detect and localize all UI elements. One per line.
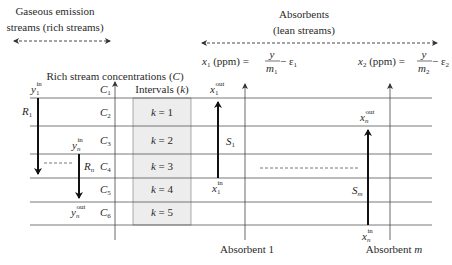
svg-text:− ε1: − ε1 (280, 55, 298, 69)
svg-text:m1: m1 (266, 62, 278, 76)
eq1-unit: (ppm) = (210, 55, 249, 68)
rich-axis-label: Rich stream concentrations (C) (46, 70, 184, 83)
c2-label: C2 (100, 106, 111, 120)
r1-inlet-label: y1in (30, 80, 42, 97)
lean-streams-header: Absorbents (lean streams) (202, 8, 437, 43)
sm-inlet-label: xnin (361, 227, 373, 244)
rn-name: Rn (83, 160, 95, 174)
eq1-den-var: m (266, 62, 274, 74)
interval-k5: k = 5 (151, 206, 174, 218)
composition-interval-diagram: Gaseous emission streams (rich streams) … (0, 0, 452, 265)
eq1-eps-sub: 1 (294, 61, 298, 69)
eq1-minus: − ε (280, 55, 294, 67)
interval-k3: k = 3 (151, 160, 174, 172)
lean-stream-s1: x1out S1 x1in (209, 80, 236, 196)
svg-text:m2: m2 (418, 62, 430, 76)
interval-k4: k = 4 (151, 183, 174, 195)
lean-title-line2: (lean streams) (273, 24, 335, 37)
eq2-den-sub: 2 (426, 68, 430, 76)
equation-absorbent-1: x1 (ppm) = y m1 − ε1 (201, 48, 298, 76)
interval-k1: k = 1 (151, 106, 173, 118)
rn-inlet-label: ynin (71, 136, 83, 153)
c4-label: C4 (100, 160, 111, 174)
eq2-numerator: y (421, 48, 427, 60)
concentration-labels: C1 C2 C3 C4 C5 C6 (100, 83, 111, 220)
sm-outlet-label: xnout (359, 108, 374, 125)
eq1-den-sub: 1 (274, 68, 278, 76)
eq2-unit: (ppm) = (366, 55, 405, 68)
s1-outlet-label: x1out (209, 80, 224, 97)
intervals-header: Intervals (k) (135, 83, 189, 96)
svg-text:x2 (ppm) =: x2 (ppm) = (357, 55, 405, 69)
c6-label: C6 (100, 206, 111, 220)
sm-name: Sm (352, 184, 363, 198)
s1-name: S1 (226, 135, 236, 149)
absorbent-1-label: Absorbent 1 (220, 243, 274, 255)
eq2-eps-sub: 2 (446, 61, 450, 69)
c3-label: C3 (100, 134, 111, 148)
svg-text:− ε2: − ε2 (432, 55, 450, 69)
eq2-den-var: m (418, 62, 426, 74)
rich-stream-r1: y1in R1 (21, 80, 72, 174)
s1-inlet-label: x1in (211, 179, 223, 196)
absorbent-m-label: Absorbent m (366, 243, 423, 255)
svg-text:x1 (ppm) =: x1 (ppm) = (201, 55, 249, 69)
interval-k2: k = 2 (151, 134, 173, 146)
c5-label: C5 (100, 183, 111, 197)
c1-label: C1 (100, 83, 111, 97)
rich-streams-header: Gaseous emission streams (rich streams) (6, 5, 110, 41)
rich-title-line1: Gaseous emission (15, 5, 95, 17)
eq2-minus: − ε (432, 55, 446, 67)
eq1-numerator: y (269, 48, 275, 60)
equation-absorbent-2: x2 (ppm) = y m2 − ε2 (357, 48, 450, 76)
rich-title-line2: streams (rich streams) (6, 21, 103, 34)
rn-outlet-label: ynout (70, 203, 85, 220)
lean-stream-sm: xnout Sm xnin (352, 108, 374, 244)
lean-title-line1: Absorbents (279, 8, 329, 20)
r1-name: R1 (21, 105, 33, 119)
